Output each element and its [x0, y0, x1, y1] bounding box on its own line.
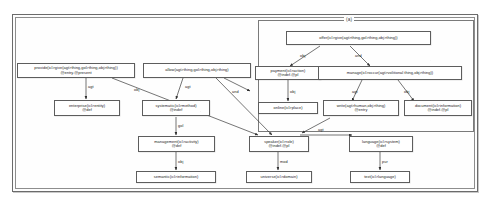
edge-label-obj-offer-payment: obj [300, 54, 305, 58]
node-management-label: management(icl>activity)@def [141, 140, 212, 149]
edge-label-obj-manage-document: obj [404, 90, 409, 94]
node-systematic-label: systematic(icl>method)@indef [145, 104, 207, 113]
node-offer[interactable]: offer(icl>give(agt>thing,gol>thing,obj>t… [286, 31, 431, 45]
edge-label-gol-systematic-management: gol [178, 124, 183, 128]
node-enterprise[interactable]: enterprise(icl>entity)@def [54, 100, 120, 116]
edge-label-mod-speaker-universe: mod [280, 160, 288, 164]
edge-label-agt-provide-enterprise: agt [88, 85, 94, 89]
node-semantic-label: semantic(icl>information) [139, 175, 213, 179]
node-language[interactable]: language(icl>system)@def [349, 136, 413, 152]
edge-label-and-allow-speaker: and [232, 90, 239, 94]
node-language-label: language(icl>system)@def [352, 140, 410, 149]
edge-label-obj-management-semantic: obj [178, 160, 183, 164]
node-write-label: write(agt>human,obj>thing)@entry [326, 104, 396, 113]
node-manage-label: manage(icl>occur(agt>volitional thing,ob… [321, 71, 459, 75]
edge-label-obj-payment-online: obj [290, 90, 295, 94]
node-document[interactable]: document(icl>information)@indef.@pl [404, 100, 472, 116]
figure-canvas: (a) [0, 0, 489, 203]
node-universe[interactable]: universe(icl>domain) [246, 171, 312, 183]
node-provide[interactable]: provide(icl>give(agt>thing,gol>thing,obj… [17, 63, 135, 78]
edge-label-agt-manage-write: agt [352, 90, 358, 94]
edge-label-and-offer-manage: and [355, 54, 362, 58]
node-management[interactable]: management(icl>activity)@def [138, 136, 215, 152]
node-online-label: online(icl>place) [261, 106, 315, 110]
node-speaker[interactable]: speaker(icl>role)@indef.@pl [249, 136, 309, 152]
edge-label-agt-speaker-language: agt [318, 128, 324, 132]
node-online[interactable]: online(icl>place) [258, 102, 318, 114]
edge-label-obj-provide-speaker: obj [134, 88, 139, 92]
node-provide-label: provide(icl>give(agt>thing,gol>thing,obj… [20, 66, 132, 75]
node-document-label: document(icl>information)@indef.@pl [407, 104, 469, 113]
node-text-label: text(icl>language) [353, 175, 407, 179]
node-allow-label: allow(agt>thing,gol>thing,obj>thing) [146, 68, 248, 72]
node-enterprise-label: enterprise(icl>entity)@def [57, 104, 117, 113]
edge-allow-systematic [176, 78, 183, 99]
node-offer-label: offer(icl>give(agt>thing,gol>thing,obj>t… [289, 36, 428, 40]
edge-label-agt-allow-systematic: agt [185, 85, 191, 89]
edge-label-pur-language-text: pur [382, 160, 388, 164]
node-universe-label: universe(icl>domain) [249, 175, 309, 179]
node-payment-label: payment(icl>action)@indef.@pl [258, 69, 318, 78]
edge-write-speaker [302, 118, 330, 133]
node-write[interactable]: write(agt>human,obj>thing)@entry [323, 100, 399, 116]
node-manage[interactable]: manage(icl>occur(agt>volitional thing,ob… [318, 66, 462, 80]
node-text[interactable]: text(icl>language) [350, 171, 410, 183]
node-semantic[interactable]: semantic(icl>information) [136, 171, 216, 183]
node-payment[interactable]: payment(icl>action)@indef.@pl [255, 66, 321, 80]
node-systematic[interactable]: systematic(icl>method)@indef [142, 100, 210, 116]
node-speaker-label: speaker(icl>role)@indef.@pl [252, 140, 306, 149]
node-allow[interactable]: allow(agt>thing,gol>thing,obj>thing) [143, 63, 251, 78]
